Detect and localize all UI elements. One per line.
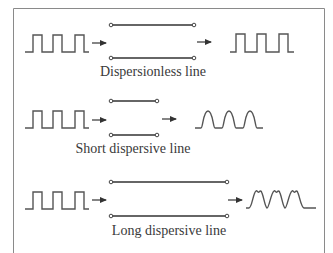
terminal-icon [109,180,113,184]
terminal-icon [192,56,196,60]
terminal-icon [109,23,113,27]
terminal-icon [109,99,113,103]
transmission-line [109,180,229,218]
terminal-icon [225,214,229,218]
dispersion-diagram: Dispersionless line Short dispersive lin… [0,0,333,253]
transmission-line [109,23,196,60]
row-long-dispersive: Long dispersive line [25,180,316,238]
label-long-dispersive-line: Long dispersive line [112,223,226,238]
label-short-dispersive-line: Short dispersive line [75,141,190,156]
terminal-icon [192,23,196,27]
terminal-icon [109,133,113,137]
input-square-wave-icon [25,35,89,52]
output-rounded-wave-icon [195,111,263,128]
terminal-icon [225,180,229,184]
input-square-wave-icon [25,111,89,128]
input-square-wave-icon [25,192,89,209]
terminal-icon [109,56,113,60]
row-short-dispersive: Short dispersive line [25,99,263,156]
output-square-wave-icon [230,34,294,52]
label-dispersionless-line: Dispersionless line [100,64,206,79]
terminal-icon [109,214,113,218]
output-distorted-wave-icon [246,191,316,208]
terminal-icon [155,133,159,137]
transmission-line [109,99,159,137]
terminal-icon [155,99,159,103]
row-dispersionless: Dispersionless line [25,23,294,79]
